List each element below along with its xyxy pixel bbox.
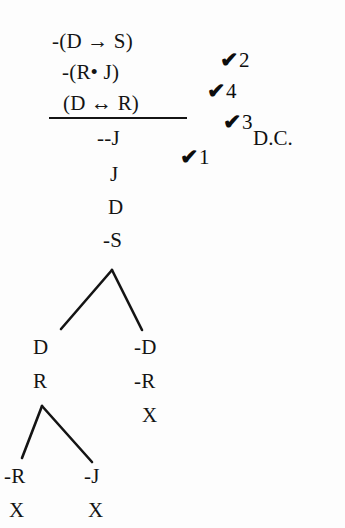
conclusion-check: ✔1	[160, 127, 210, 188]
premise-check-3: ✔3	[203, 92, 253, 153]
branch-line-upper-right	[112, 270, 142, 330]
branch-upper-left-node-1: D	[33, 337, 48, 358]
checkmark-icon: ✔	[223, 112, 242, 133]
premise-formula-1: -(D → S)	[52, 31, 133, 52]
branch-upper-left-node-2: R	[33, 371, 47, 392]
conclusion-formula: --J	[97, 128, 120, 149]
branch-lines	[0, 0, 345, 528]
branch-line-lower-right	[42, 406, 92, 462]
branch-line-lower-left	[22, 406, 42, 458]
premise-line-number-1: 2	[239, 48, 250, 72]
premise-formula-2: -(R• J)	[62, 62, 119, 83]
trunk-node-3: -S	[103, 230, 122, 251]
branch-upper-right-node-1: -D	[134, 337, 157, 358]
premise-line-number-3: 3	[242, 110, 253, 134]
conclusion-line-number: 1	[199, 145, 210, 169]
branch-lower-right-node-1: -J	[84, 466, 100, 487]
branch-lower-left-closure-x: X	[9, 500, 24, 521]
premise-divider-rule	[49, 117, 187, 119]
branch-upper-right-closure-x: X	[142, 405, 157, 426]
branch-upper-right-node-2: -R	[134, 371, 155, 392]
checkmark-icon: ✔	[180, 147, 199, 168]
trunk-node-2: D	[108, 197, 123, 218]
branch-line-upper-left	[61, 270, 112, 329]
conclusion-annotation: D.C.	[253, 128, 293, 149]
truth-tree-sheet: -(D → S) ✔2 -(R• J) ✔4 (D ↔ R) ✔3 --J ✔1…	[0, 0, 345, 528]
premise-formula-3: (D ↔ R)	[63, 93, 139, 114]
trunk-node-1: J	[110, 164, 118, 185]
branch-lower-left-node-1: -R	[4, 466, 25, 487]
branch-lower-right-closure-x: X	[88, 500, 103, 521]
